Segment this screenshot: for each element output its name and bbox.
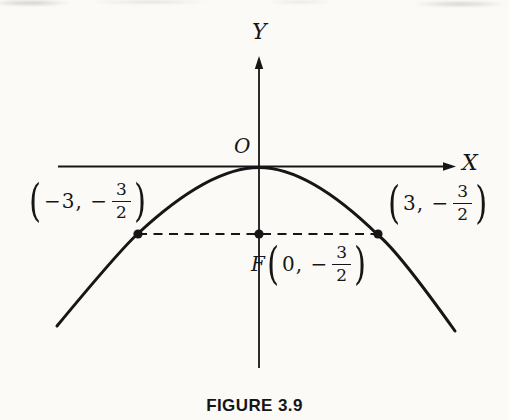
origin-label: O [234,136,250,156]
fraction: 3 2 [453,183,472,223]
left-point-coords-text: −3, − [42,191,110,211]
fraction-denominator: 2 [457,204,468,224]
close-paren: ) [133,178,147,222]
fraction-numerator: 3 [112,181,131,202]
right-point-coords-text: 3, − [401,193,451,213]
fraction: 3 2 [332,244,351,284]
figure-caption: FIGURE 3.9 [0,396,509,416]
left-point-label: ( −3, − 3 2 ) [28,181,147,221]
x-axis-label: X [462,152,478,174]
open-paren: ( [266,241,280,285]
fraction-numerator: 3 [332,244,351,265]
close-paren: ) [353,241,367,285]
left-point-dot [133,229,142,238]
focus-point-label: F ( 0, − 3 2 ) [251,244,367,284]
open-paren: ( [387,180,401,224]
fraction-denominator: 2 [116,202,127,222]
y-axis-arrow-icon [255,56,263,69]
close-paren: ) [474,180,488,224]
focus-point-dot [254,229,263,238]
y-axis-label: Y [252,21,267,43]
right-point-dot [373,229,382,238]
x-axis-arrow-icon [443,162,456,170]
focus-point-name: F [251,254,266,274]
right-point-label: ( 3, − 3 2 ) [387,183,488,223]
focus-coords-text: 0, − [280,254,330,274]
fraction-denominator: 2 [336,265,347,285]
fraction-numerator: 3 [453,183,472,204]
open-paren: ( [28,178,42,222]
fraction: 3 2 [112,181,131,221]
figure-page: Y X O ( −3, − 3 2 ) ( 3, − 3 2 ) F ( 0, … [0,0,509,420]
